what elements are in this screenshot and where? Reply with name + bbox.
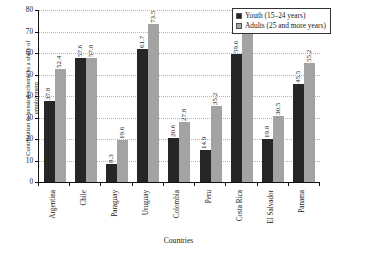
x-axis-tick-mark — [225, 182, 226, 186]
bar-value-label: 30.5 — [275, 103, 282, 115]
x-axis-label-cell: Argentina — [38, 188, 69, 234]
y-axis-title: Contribution to pension scheme as a shar… — [0, 8, 26, 188]
legend-item-adults: Adults (25 and more years) — [236, 21, 326, 31]
bar-value-label: 19.6 — [119, 127, 126, 139]
y-axis-title-line1: Contribution to pension scheme as a shar… — [24, 40, 31, 155]
bar: 45.5 — [293, 84, 304, 182]
x-axis-tick-mark — [69, 182, 70, 186]
legend-label-adults: Adults (25 and more years) — [245, 21, 326, 31]
bar-value-label: 73.5 — [150, 11, 157, 23]
bar: 35.2 — [211, 106, 222, 182]
x-axis-tick-mark — [257, 182, 258, 186]
x-axis-tick-mark — [194, 182, 195, 186]
bar: 61.7 — [137, 49, 148, 182]
x-axis-tick-marks — [38, 182, 319, 186]
x-axis-label-cell: Costa Rica — [225, 188, 256, 234]
bar: 27.8 — [179, 122, 190, 182]
x-axis-tick-mark — [100, 182, 101, 186]
bar: 19.8 — [262, 139, 273, 182]
plot-area: 01020304050607080 37.852.457.657.88.319.… — [38, 10, 320, 183]
bar-value-label: 61.7 — [139, 36, 146, 48]
bar-group: 61.773.5 — [133, 10, 164, 182]
bar-value-label: 19.8 — [264, 126, 271, 138]
bar-value-label: 8.3 — [108, 154, 115, 163]
bar: 19.6 — [117, 140, 128, 182]
bar: 20.6 — [168, 138, 179, 182]
bar-value-label: 14.9 — [201, 137, 208, 149]
legend-swatch-youth-icon — [236, 13, 242, 19]
bar-value-label: 27.8 — [181, 109, 188, 121]
bar: 52.4 — [55, 69, 66, 182]
x-axis-tick-label: Argentina — [50, 190, 57, 219]
bar-value-label: 57.6 — [77, 45, 84, 57]
x-axis-tick-label: El Salvador — [269, 190, 276, 224]
x-axis-tick-label: Chile — [81, 190, 88, 206]
bar: 70.8 — [242, 30, 253, 182]
x-axis-tick-mark — [319, 182, 320, 186]
bar: 37.8 — [44, 101, 55, 182]
x-axis-label-cell: Colombia — [163, 188, 194, 234]
x-axis-title: Countries — [38, 236, 319, 245]
x-axis-tick-label: Paraguay — [112, 190, 119, 217]
bar-group: 8.319.6 — [101, 10, 132, 182]
bar: 30.5 — [273, 116, 284, 182]
bar: 8.3 — [106, 164, 117, 182]
bar: 59.6 — [231, 54, 242, 182]
legend-item-youth: Youth (15–24 years) — [236, 11, 326, 21]
x-axis-label-cell: Uruguay — [132, 188, 163, 234]
legend-label-youth: Youth (15–24 years) — [245, 11, 305, 21]
legend: Youth (15–24 years) Adults (25 and more … — [232, 8, 331, 34]
bar-group: 57.657.8 — [70, 10, 101, 182]
x-axis-label-cell: Paraguay — [100, 188, 131, 234]
bar-chart-figure: Contribution to pension scheme as a shar… — [0, 0, 380, 254]
bar-group: 45.555.2 — [289, 10, 320, 182]
bar-value-label: 59.6 — [233, 41, 240, 53]
x-axis-tick-mark — [38, 182, 39, 186]
bar-group: 59.670.8 — [226, 10, 257, 182]
bar-group: 37.852.4 — [39, 10, 70, 182]
bar: 14.9 — [200, 150, 211, 182]
bar: 57.6 — [75, 58, 86, 182]
bar: 57.8 — [86, 58, 97, 182]
x-axis-tick-label: Uruguay — [144, 190, 151, 215]
bar-groups: 37.852.457.657.88.319.661.773.520.627.81… — [39, 10, 320, 182]
x-axis-tick-labels: ArgentinaChileParaguayUruguayColombiaPer… — [38, 188, 319, 234]
bar-value-label: 20.6 — [170, 124, 177, 136]
x-axis-label-cell: Panama — [288, 188, 319, 234]
x-axis-tick-label: Peru — [206, 190, 213, 203]
bar-group: 20.627.8 — [164, 10, 195, 182]
legend-swatch-adults-icon — [236, 23, 242, 29]
bar-value-label: 52.4 — [56, 56, 63, 68]
x-axis-tick-label: Colombia — [175, 190, 182, 218]
bar-value-label: 45.5 — [295, 71, 302, 83]
x-axis-label-cell: El Salvador — [257, 188, 288, 234]
x-axis-tick-mark — [132, 182, 133, 186]
x-axis-label-cell: Peru — [194, 188, 225, 234]
x-axis-tick-label: Costa Rica — [237, 190, 244, 221]
x-axis-tick-mark — [288, 182, 289, 186]
bar-value-label: 35.2 — [212, 93, 219, 105]
x-axis-label-cell: Chile — [69, 188, 100, 234]
bar-value-label: 55.2 — [306, 50, 313, 62]
bar-value-label: 37.8 — [45, 87, 52, 99]
x-axis-tick-mark — [163, 182, 164, 186]
bar: 73.5 — [148, 24, 159, 182]
x-axis-tick-label: Panama — [300, 190, 307, 213]
bar-group: 19.830.5 — [258, 10, 289, 182]
bar-group: 14.935.2 — [195, 10, 226, 182]
bar-value-label: 57.8 — [88, 44, 95, 56]
bar: 55.2 — [304, 63, 315, 182]
